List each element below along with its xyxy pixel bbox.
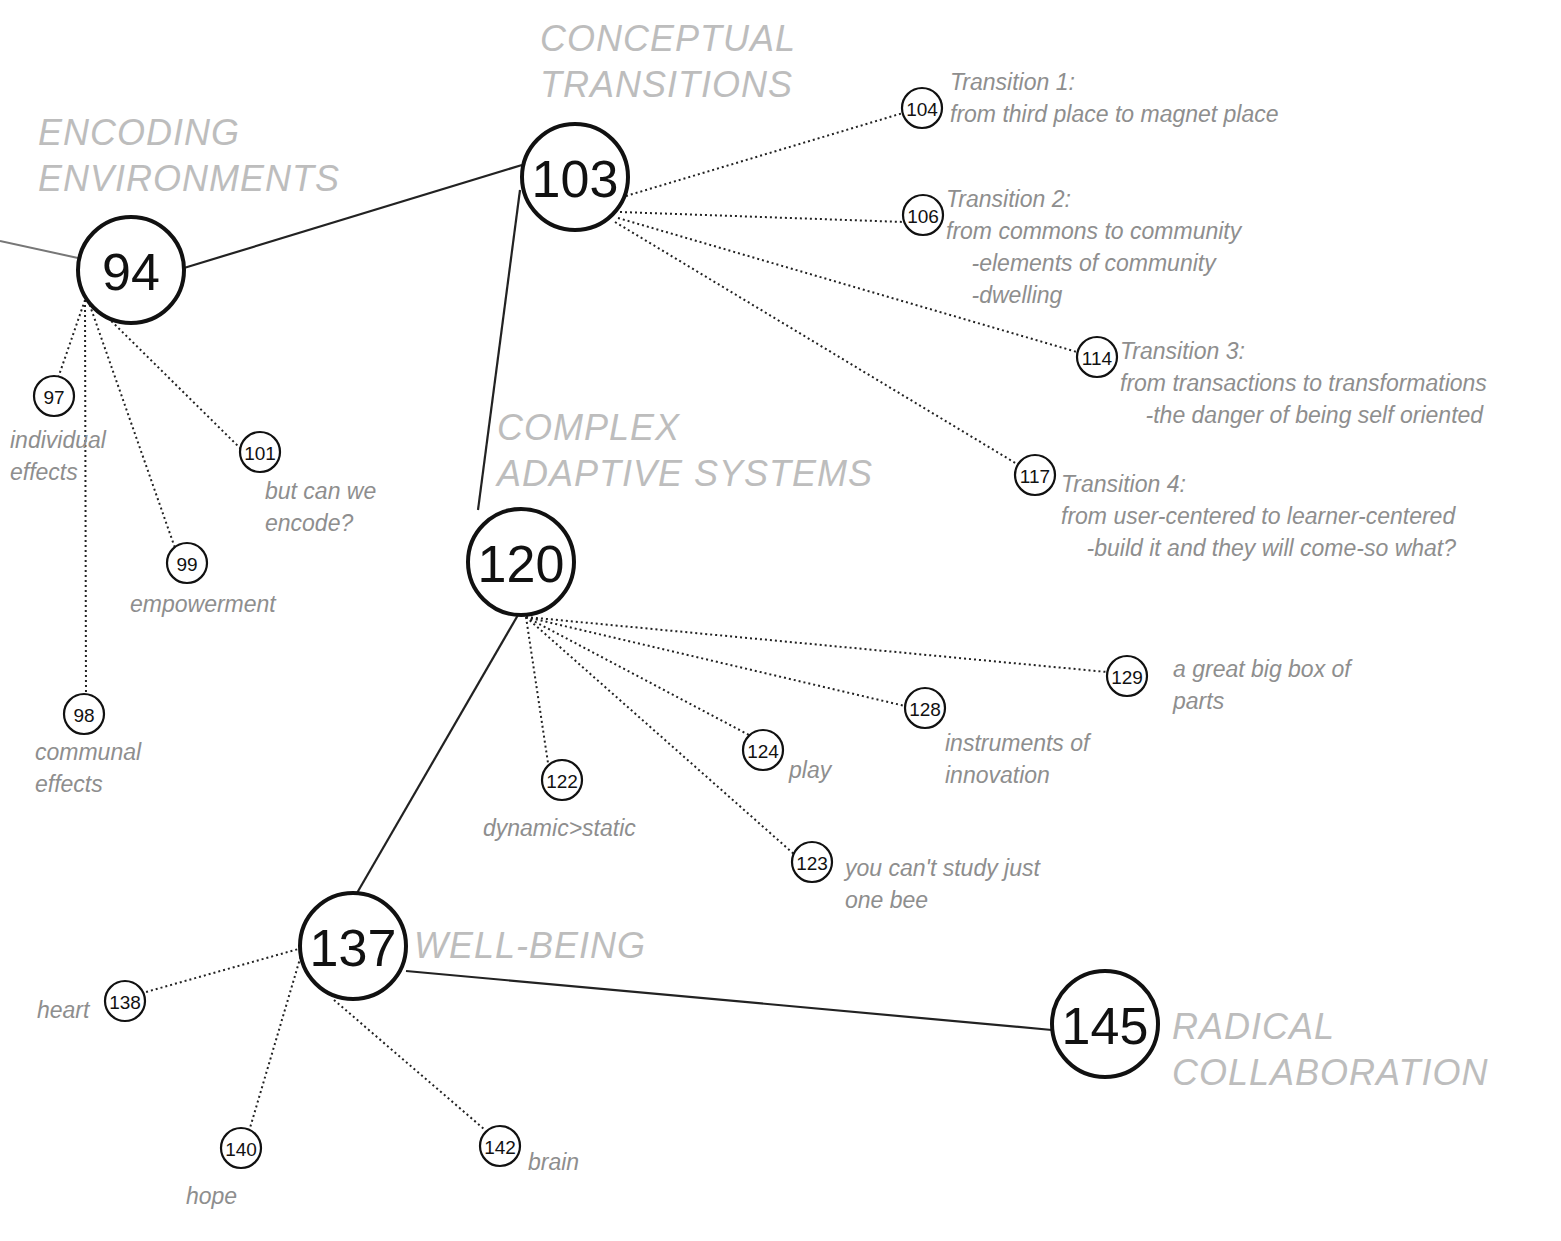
edge-incoming-94 bbox=[0, 241, 78, 258]
node-103[interactable]: 103 bbox=[522, 124, 628, 230]
edge-103-104 bbox=[626, 113, 903, 196]
note-99: empowerment bbox=[130, 588, 276, 620]
svg-text:123: 123 bbox=[796, 853, 828, 874]
svg-text:106: 106 bbox=[907, 206, 939, 227]
node-140[interactable]: 140 bbox=[221, 1128, 261, 1168]
note-101: but can we encode? bbox=[265, 475, 376, 539]
svg-text:145: 145 bbox=[1062, 997, 1149, 1055]
node-114[interactable]: 114 bbox=[1077, 337, 1117, 377]
note-128: instruments of innovation bbox=[945, 727, 1089, 791]
svg-text:101: 101 bbox=[244, 443, 276, 464]
node-99[interactable]: 99 bbox=[167, 543, 207, 583]
edge-120-137 bbox=[357, 615, 518, 893]
svg-text:97: 97 bbox=[43, 387, 64, 408]
note-117: Transition 4: from user-centered to lear… bbox=[1061, 468, 1456, 564]
svg-text:124: 124 bbox=[747, 741, 779, 762]
edge-137-145 bbox=[406, 971, 1052, 1030]
section-title-radical-collaboration: RADICAL COLLABORATION bbox=[1172, 1004, 1488, 1096]
svg-text:117: 117 bbox=[1020, 466, 1050, 487]
section-title-encoding-environments: ENCODING ENVIRONMENTS bbox=[38, 110, 340, 202]
node-98[interactable]: 98 bbox=[64, 694, 104, 734]
edge-94-97 bbox=[57, 300, 85, 381]
edge-120-129 bbox=[526, 617, 1107, 672]
svg-text:120: 120 bbox=[478, 535, 565, 593]
note-124: play bbox=[789, 754, 831, 786]
note-97: individual effects bbox=[10, 424, 106, 488]
svg-text:98: 98 bbox=[73, 705, 94, 726]
note-129: a great big box of parts bbox=[1173, 653, 1351, 717]
section-title-conceptual-transitions: CONCEPTUAL TRANSITIONS bbox=[540, 16, 796, 108]
node-137[interactable]: 137 bbox=[300, 893, 406, 999]
svg-text:137: 137 bbox=[310, 919, 397, 977]
note-142: brain bbox=[528, 1146, 579, 1178]
note-140: hope bbox=[186, 1180, 237, 1212]
edge-137-142 bbox=[334, 1000, 484, 1129]
svg-text:122: 122 bbox=[546, 771, 578, 792]
node-122[interactable]: 122 bbox=[542, 760, 582, 800]
node-142[interactable]: 142 bbox=[480, 1126, 520, 1166]
svg-text:114: 114 bbox=[1082, 348, 1113, 369]
svg-text:128: 128 bbox=[909, 699, 941, 720]
edge-94-98 bbox=[85, 300, 86, 699]
node-138[interactable]: 138 bbox=[105, 981, 145, 1021]
svg-text:94: 94 bbox=[102, 243, 160, 301]
section-title-complex-adaptive-systems: COMPLEX ADAPTIVE SYSTEMS bbox=[497, 405, 873, 497]
svg-text:129: 129 bbox=[1111, 667, 1143, 688]
note-106: Transition 2: from commons to community … bbox=[946, 183, 1241, 311]
note-104: Transition 1: from third place to magnet… bbox=[950, 66, 1279, 130]
note-114: Transition 3: from transactions to trans… bbox=[1120, 335, 1487, 431]
svg-text:140: 140 bbox=[225, 1139, 257, 1160]
edge-120-122 bbox=[526, 617, 548, 763]
edge-137-138 bbox=[146, 948, 302, 992]
section-title-well-being: WELL-BEING bbox=[414, 923, 646, 969]
svg-text:142: 142 bbox=[484, 1137, 516, 1158]
node-97[interactable]: 97 bbox=[34, 376, 74, 416]
node-104[interactable]: 104 bbox=[902, 88, 942, 128]
node-117[interactable]: 117 bbox=[1015, 455, 1055, 495]
note-98: communal effects bbox=[35, 736, 141, 800]
node-106[interactable]: 106 bbox=[903, 195, 943, 235]
node-123[interactable]: 123 bbox=[792, 842, 832, 882]
node-124[interactable]: 124 bbox=[743, 730, 783, 770]
note-138: heart bbox=[37, 994, 89, 1026]
node-145[interactable]: 145 bbox=[1052, 971, 1158, 1077]
svg-text:99: 99 bbox=[176, 554, 197, 575]
svg-text:104: 104 bbox=[906, 99, 938, 120]
edge-120-128 bbox=[526, 617, 905, 706]
node-129[interactable]: 129 bbox=[1107, 656, 1147, 696]
node-128[interactable]: 128 bbox=[905, 688, 945, 728]
svg-text:103: 103 bbox=[532, 150, 619, 208]
node-120[interactable]: 120 bbox=[468, 509, 574, 615]
note-122: dynamic>static bbox=[483, 812, 636, 844]
node-94[interactable]: 94 bbox=[78, 217, 184, 323]
note-123: you can't study just one bee bbox=[845, 852, 1040, 916]
edge-137-140 bbox=[250, 952, 302, 1128]
edge-94-101 bbox=[90, 300, 242, 450]
edge-103-106 bbox=[620, 212, 904, 222]
node-101[interactable]: 101 bbox=[240, 432, 280, 472]
svg-text:138: 138 bbox=[109, 992, 141, 1013]
